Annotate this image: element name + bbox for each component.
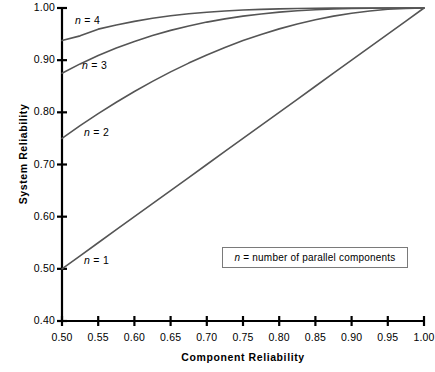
- y-tick-label: 0.50: [10, 262, 55, 274]
- y-axis-title: System Reliability: [17, 84, 29, 224]
- y-tick-label: 1.00: [10, 1, 55, 13]
- data-curves: [62, 8, 424, 269]
- curve-label-2: n = 2: [84, 126, 109, 138]
- x-tick-label: 1.00: [403, 331, 435, 343]
- y-tick-label: 0.40: [10, 314, 55, 326]
- curve-label-4: n = 4: [75, 14, 100, 26]
- legend-note: n = number of parallel components: [235, 252, 396, 263]
- plot-area: [0, 0, 435, 372]
- curve-1: [62, 8, 424, 269]
- axes: [57, 8, 424, 326]
- curve-2: [62, 8, 424, 138]
- y-tick-label: 0.90: [10, 53, 55, 65]
- legend-box: n = number of parallel components: [222, 247, 408, 268]
- curve-label-3: n = 3: [82, 59, 107, 71]
- reliability-chart: 0.400.500.600.700.800.901.000.500.550.60…: [0, 0, 435, 372]
- x-axis-title: Component Reliability: [62, 351, 424, 363]
- curve-4: [62, 8, 424, 41]
- curve-label-1: n = 1: [84, 254, 109, 266]
